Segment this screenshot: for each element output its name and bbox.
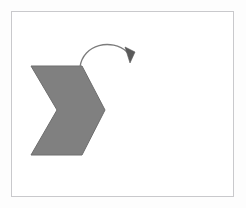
figure-graphic [0, 0, 246, 208]
rotation-arrow-arc [80, 45, 127, 67]
rotation-arrowhead-icon [125, 47, 135, 63]
chevron-shape [31, 66, 105, 155]
diagram-canvas [0, 0, 246, 208]
